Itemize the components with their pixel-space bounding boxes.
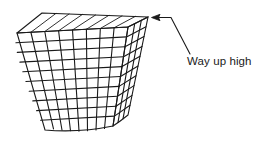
leader-line-path: [154, 18, 190, 55]
top-grid-line-5: [86, 15, 108, 29]
side-grid-hline-4: [122, 56, 140, 66]
front-grid-vline-3: [59, 31, 71, 131]
side-grid-hline-5: [121, 66, 139, 77]
side-grid-hline-2: [125, 37, 144, 47]
front-grid-vline-6: [96, 29, 100, 131]
top-grid-line-6: [100, 16, 122, 29]
front-grid-vline-7: [105, 28, 115, 129]
annotation-leader: [154, 18, 190, 55]
top-grid-line-3: [59, 15, 83, 31]
mesh-shape: [16, 13, 148, 131]
arrow-head-icon: [152, 14, 161, 20]
right-face-outline: [113, 17, 148, 126]
front-grid-hline-4: [23, 67, 122, 72]
front-grid-hline-5: [26, 77, 121, 82]
figure-root: Way up high: [0, 0, 267, 142]
top-grid-line-1: [31, 14, 56, 33]
front-grid-hline-6: [29, 86, 119, 91]
front-grid-hline-2: [17, 47, 125, 53]
top-grid-line-4: [73, 15, 96, 30]
top-grid-line-2: [45, 14, 69, 32]
side-grid-hline-1: [127, 27, 147, 37]
wireframe-mesh-diagram: [0, 0, 267, 142]
front-grid-vline-5: [86, 29, 87, 131]
side-grid-hline-6: [119, 76, 136, 87]
right-side-face: [113, 17, 148, 126]
annotation-label: Way up high: [187, 55, 252, 67]
side-grid-hline-7: [118, 86, 135, 97]
front-grid-hline-3: [20, 57, 124, 62]
side-grid-hline-3: [124, 46, 143, 56]
top-grid-line-7: [114, 16, 135, 27]
front-grid-vline-4: [73, 30, 80, 131]
front-face: [16, 27, 128, 131]
